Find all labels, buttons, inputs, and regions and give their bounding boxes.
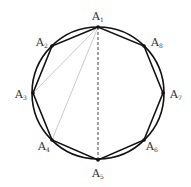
label-a5: A5	[91, 167, 104, 180]
label-a3: A3	[14, 88, 27, 101]
label-a2: A2	[35, 36, 48, 49]
label-a8: A8	[150, 36, 163, 49]
label-a1: A1	[91, 10, 104, 23]
octagon-diagram: A1 A2 A3 A4 A5 A6 A7 A8	[0, 0, 191, 187]
label-a4: A4	[37, 140, 50, 153]
label-a6: A6	[145, 140, 158, 153]
label-a7: A7	[169, 88, 182, 101]
